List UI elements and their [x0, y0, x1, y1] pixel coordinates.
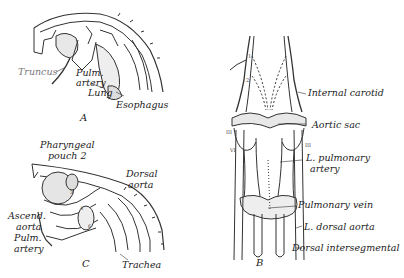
label-l-pulmonary: L. pulmonary [306, 153, 370, 163]
label-pouch-2: pouch 2 [48, 151, 86, 161]
panel-label-c: C [82, 258, 90, 269]
label-pharyngeal: Pharyngeal [40, 140, 95, 150]
arch-numeral: 3 [70, 189, 73, 195]
panel-label-b: B [256, 257, 263, 268]
label-dorsal: Dorsal [126, 169, 157, 179]
label-lung: Lung [88, 88, 113, 98]
label-dorsal-intersegmental: Dorsal intersegmental [292, 243, 399, 253]
arch-numeral: 2 [246, 77, 249, 83]
label-trachea: Trachea [122, 260, 161, 270]
panel-b-drawing [230, 36, 306, 260]
label-esophagus: Esophagus [116, 100, 168, 110]
arch-numeral: 1 [248, 53, 251, 59]
arch-numeral: 4 [80, 205, 83, 211]
arch-numeral: III [226, 129, 232, 135]
label-dorsal-aorta: aorta [128, 180, 153, 190]
label-l-pulmonary-artery: artery [310, 164, 340, 174]
label-ascend-aorta: aorta [16, 222, 41, 232]
label-pulm-c: Pulm. [14, 233, 42, 243]
panel-label-a: A [80, 112, 87, 123]
label-aortic-sac: Aortic sac [312, 120, 360, 130]
label-pulmonary-vein: Pulmonary vein [298, 200, 373, 210]
label-l-dorsal-aorta: L. dorsal aorta [304, 222, 375, 232]
arch-numeral: 6 [88, 223, 91, 229]
label-artery-c: artery [14, 244, 44, 254]
label-ascend: Ascend. [8, 211, 46, 221]
arch-numeral: III [305, 142, 311, 148]
label-internal-carotid: Internal carotid [308, 88, 384, 98]
arch-numeral: VI [229, 147, 236, 153]
label-truncus: Truncus [18, 67, 57, 77]
